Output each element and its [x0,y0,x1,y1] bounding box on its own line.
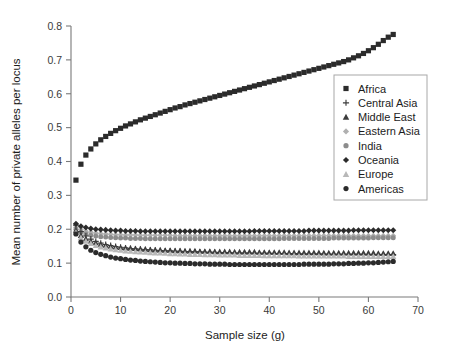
y-tick-label: 0.0 [47,291,62,303]
x-tick-label: 20 [164,304,176,316]
data-point [143,116,148,121]
data-point [98,252,103,257]
data-point [103,235,108,240]
data-point [143,259,148,264]
data-point [232,89,237,94]
data-point [356,53,361,58]
data-point [202,97,207,102]
data-point [282,262,287,267]
data-point [287,74,292,79]
data-point [237,236,242,241]
y-tick-label: 0.2 [47,223,62,235]
data-point [252,83,257,88]
legend-label: Oceania [358,154,400,166]
data-point [103,253,108,258]
data-point [163,109,168,114]
data-point [316,262,321,267]
data-point [366,48,371,53]
data-point [168,107,173,112]
data-point [262,236,267,241]
data-point [386,35,391,40]
data-point [341,261,346,266]
chart-figure: 010203040506070 0.00.10.20.30.40.50.60.7… [0,0,460,352]
legend-label: Eastern Asia [358,125,421,137]
data-point [98,137,103,142]
data-point [222,236,227,241]
data-point [88,146,93,151]
data-point [346,57,351,62]
data-point [202,236,207,241]
data-point [252,262,257,267]
data-point [118,256,123,261]
data-point [311,262,316,267]
data-point [138,236,143,241]
data-point [182,102,187,107]
data-point [73,231,78,236]
data-point [391,259,396,264]
y-tick-label: 0.4 [47,155,62,167]
data-point [148,236,153,241]
chart-canvas: 010203040506070 0.00.10.20.30.40.50.60.7… [0,0,460,352]
data-point [187,236,192,241]
data-point [222,91,227,96]
data-point [257,236,262,241]
data-point [207,262,212,267]
data-point [113,235,118,240]
data-point [381,235,386,240]
data-point [306,262,311,267]
data-point [227,236,232,241]
data-point [311,67,316,72]
y-axis-title: Mean number of private alleles per locus [10,58,22,265]
data-point [272,78,277,83]
data-point [376,260,381,265]
data-point [163,236,168,241]
legend-label: Africa [358,83,387,95]
legend-label: Americas [358,183,404,195]
data-point [177,261,182,266]
data-point [336,236,341,241]
data-point [113,255,118,260]
data-point [287,262,292,267]
data-point [301,262,306,267]
data-point [287,236,292,241]
data-point [341,236,346,241]
data-point [93,234,98,239]
data-point [123,123,128,128]
data-point [356,236,361,241]
y-tick-label: 0.3 [47,189,62,201]
data-point [217,236,222,241]
data-point [247,262,252,267]
data-point [183,236,188,241]
data-point [187,261,192,266]
x-tick-label: 70 [412,304,424,316]
data-point [207,96,212,101]
data-point [356,261,361,266]
data-point [321,64,326,69]
data-point [78,162,83,167]
legend-label: India [358,140,383,152]
data-point [341,59,346,64]
data-point [192,236,197,241]
data-point [277,77,282,82]
y-tick-label: 0.1 [47,257,62,269]
legend-label: Middle East [358,111,415,123]
data-point [93,141,98,146]
legend-marker-circle-icon [343,143,348,148]
data-point [232,262,237,267]
data-point [331,62,336,67]
data-point [232,236,237,241]
data-point [371,260,376,265]
data-point [108,254,113,259]
data-point [227,262,232,267]
data-point [326,63,331,68]
chart-legend: AfricaCentral AsiaMiddle EastEastern Asi… [334,75,427,200]
data-point [336,60,341,65]
data-point [128,236,133,241]
data-point [143,236,148,241]
data-point [158,236,163,241]
data-point [282,236,287,241]
data-point [381,260,386,265]
x-tick-label: 0 [68,304,74,316]
data-point [83,244,88,249]
data-point [163,260,168,265]
